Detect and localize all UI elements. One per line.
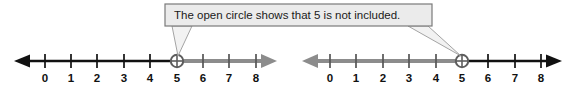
right-label-1: 1 <box>353 72 360 84</box>
number-line-figure: 0 1 2 3 4 5 6 7 8 <box>0 0 574 92</box>
left-line-black-segment <box>14 55 177 68</box>
left-label-7: 7 <box>226 72 232 84</box>
right-line-labels: 0 1 2 3 4 5 6 7 8 <box>327 72 545 84</box>
right-label-2: 2 <box>380 72 386 84</box>
callout-annotation: The open circle shows that 5 is not incl… <box>165 4 461 56</box>
right-label-5: 5 <box>459 72 466 84</box>
right-label-0: 0 <box>327 72 333 84</box>
number-line-right: 0 1 2 3 4 5 6 7 8 <box>302 54 562 84</box>
left-label-8: 8 <box>253 72 260 84</box>
right-label-8: 8 <box>538 72 545 84</box>
right-label-6: 6 <box>485 72 491 84</box>
callout-label: The open circle shows that 5 is not incl… <box>174 9 400 21</box>
left-label-0: 0 <box>42 72 48 84</box>
right-label-7: 7 <box>512 72 518 84</box>
left-label-5: 5 <box>174 72 181 84</box>
left-label-4: 4 <box>147 72 154 84</box>
left-line-gray-segment <box>177 54 277 68</box>
number-line-left: 0 1 2 3 4 5 6 7 8 <box>14 54 277 84</box>
figure-canvas: 0 1 2 3 4 5 6 7 8 <box>0 0 574 92</box>
right-label-4: 4 <box>433 72 440 84</box>
callout-tail-right <box>408 26 461 56</box>
left-label-3: 3 <box>121 72 127 84</box>
right-line-gray-segment <box>302 54 462 68</box>
right-label-3: 3 <box>406 72 412 84</box>
left-label-1: 1 <box>68 72 75 84</box>
left-open-circle-marker <box>171 55 183 67</box>
right-line-black-segment <box>462 55 562 68</box>
left-label-6: 6 <box>200 72 206 84</box>
left-label-2: 2 <box>94 72 100 84</box>
callout-tail-left <box>172 26 192 56</box>
right-open-circle-marker <box>456 55 468 67</box>
left-line-labels: 0 1 2 3 4 5 6 7 8 <box>42 72 260 84</box>
